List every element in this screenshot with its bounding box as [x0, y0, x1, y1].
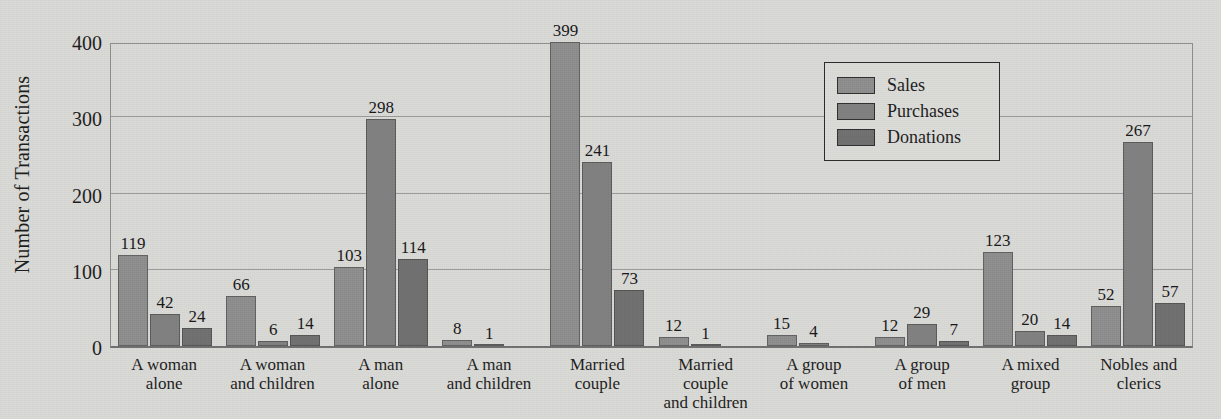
chart-legend: SalesPurchasesDonations — [824, 62, 1000, 161]
bar-slot: 1 — [474, 44, 504, 346]
bar-slot: 20 — [1015, 44, 1045, 346]
bar-value-label: 399 — [553, 22, 579, 39]
bar[interactable] — [767, 335, 797, 346]
legend-item-sales[interactable]: Sales — [837, 72, 987, 98]
bar[interactable] — [474, 344, 504, 346]
bar-group: 5226757 — [1084, 44, 1192, 346]
bar-value-label: 57 — [1161, 283, 1178, 300]
bar-value-label: 1 — [485, 325, 494, 342]
bar-slot: 12 — [659, 44, 689, 346]
bar[interactable] — [442, 340, 472, 346]
x-axis-label: Marriedcouple — [543, 352, 651, 419]
bar-value-label: 1 — [701, 325, 710, 342]
bar[interactable] — [334, 267, 364, 346]
bar-value-label: 73 — [621, 270, 638, 287]
bar[interactable] — [582, 162, 612, 346]
bar[interactable] — [182, 328, 212, 346]
bar-group: 121 — [651, 44, 759, 346]
x-axis-label: A mixedgroup — [976, 352, 1084, 419]
bar[interactable] — [939, 341, 969, 346]
bar[interactable] — [875, 337, 905, 346]
bar[interactable] — [366, 119, 396, 346]
bar[interactable] — [550, 42, 580, 346]
bar-slot — [506, 44, 536, 346]
x-axis-label: A manalone — [327, 352, 435, 419]
bar-slot: 114 — [398, 44, 428, 346]
x-axis-label: A groupof women — [760, 352, 868, 419]
bar-slot: 42 — [150, 44, 180, 346]
bar[interactable] — [1047, 335, 1077, 346]
bar-value-label: 14 — [1053, 315, 1070, 332]
y-axis-title-text: Number of Transactions — [12, 75, 35, 273]
bar[interactable] — [1155, 303, 1185, 346]
y-tick-label: 300 — [44, 109, 102, 129]
bar-value-label: 24 — [189, 308, 206, 325]
x-axis-label: A manand children — [435, 352, 543, 419]
bar-value-label: 114 — [401, 239, 426, 256]
bar-value-label: 42 — [157, 294, 174, 311]
bar-slot: 57 — [1155, 44, 1185, 346]
bar-slot: 8 — [442, 44, 472, 346]
legend-swatch-icon — [837, 77, 875, 94]
bar[interactable] — [983, 252, 1013, 346]
legend-item-label: Purchases — [887, 102, 959, 120]
bar-slot: 73 — [614, 44, 644, 346]
bar[interactable] — [258, 341, 288, 346]
bar-slot: 1 — [691, 44, 721, 346]
bar-value-label: 4 — [809, 323, 818, 340]
legend-item-label: Sales — [887, 76, 925, 94]
legend-item-donations[interactable]: Donations — [837, 124, 987, 150]
plot-area: 1194224666141032981148139924173121154122… — [110, 43, 1193, 348]
x-axis-label: A groupof men — [868, 352, 976, 419]
bar[interactable] — [1015, 331, 1045, 346]
bar-slot: 267 — [1123, 44, 1153, 346]
bar-value-label: 298 — [368, 99, 394, 116]
bar[interactable] — [691, 344, 721, 346]
legend-swatch-icon — [837, 129, 875, 146]
bar-value-label: 12 — [881, 317, 898, 334]
bar-value-label: 119 — [121, 235, 146, 252]
y-tick-label: 100 — [44, 262, 102, 282]
x-axis-label: A womanand children — [218, 352, 326, 419]
bar-slot: 6 — [258, 44, 288, 346]
bar-value-label: 20 — [1021, 311, 1038, 328]
bar-value-label: 29 — [913, 304, 930, 321]
bar-value-label: 15 — [773, 315, 790, 332]
bar-value-label: 267 — [1125, 122, 1151, 139]
x-axis-category-labels: A womanaloneA womanand childrenA manalon… — [110, 352, 1193, 419]
bar[interactable] — [398, 259, 428, 346]
y-axis-title: Number of Transactions — [6, 0, 40, 348]
bar-value-label: 8 — [453, 320, 462, 337]
y-tick-label: 200 — [44, 186, 102, 206]
bar[interactable] — [614, 290, 644, 346]
bar-slot: 119 — [118, 44, 148, 346]
bar-value-label: 123 — [985, 232, 1011, 249]
legend-item-purchases[interactable]: Purchases — [837, 98, 987, 124]
bar[interactable] — [150, 314, 180, 346]
bar[interactable] — [118, 255, 148, 346]
bar-slot — [723, 44, 753, 346]
grouped-bar-chart: Number of Transactions 0100200300400 119… — [0, 0, 1221, 419]
bar[interactable] — [907, 324, 937, 346]
x-axis-label: A womanalone — [110, 352, 218, 419]
bar-slot: 66 — [226, 44, 256, 346]
y-tick-label: 0 — [44, 338, 102, 358]
bar[interactable] — [1091, 306, 1121, 346]
bar[interactable] — [290, 335, 320, 346]
bar[interactable] — [226, 296, 256, 346]
bar-slot: 241 — [582, 44, 612, 346]
bar-group: 1194224 — [111, 44, 219, 346]
y-axis-tick-labels: 0100200300400 — [40, 0, 102, 419]
bar-slot: 14 — [290, 44, 320, 346]
bar[interactable] — [799, 343, 829, 346]
bar[interactable] — [659, 337, 689, 346]
bar-slot: 15 — [767, 44, 797, 346]
legend-item-label: Donations — [887, 128, 961, 146]
bar-slot: 399 — [550, 44, 580, 346]
bar-value-label: 14 — [297, 315, 314, 332]
legend-swatch-icon — [837, 103, 875, 120]
bar[interactable] — [1123, 142, 1153, 346]
bar-value-label: 6 — [269, 321, 278, 338]
bar-value-label: 241 — [585, 142, 611, 159]
bar-groups: 1194224666141032981148139924173121154122… — [111, 44, 1192, 346]
